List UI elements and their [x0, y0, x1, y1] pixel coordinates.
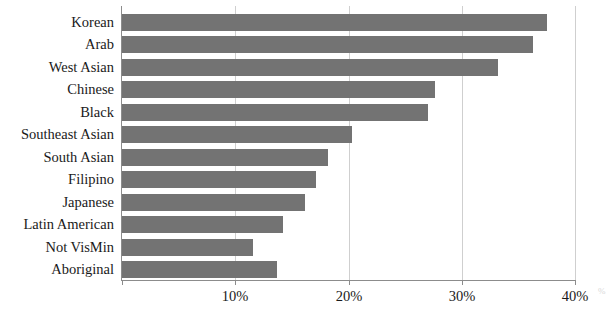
x-tick-label-text: 30%	[449, 288, 476, 304]
bar-row	[122, 14, 610, 31]
category-label: West Asian	[0, 59, 114, 76]
category-label: Latin American	[0, 216, 114, 233]
bar-chart: Korean Arab West Asian Chinese Black Sou…	[0, 0, 610, 315]
scan-artifact: %	[598, 286, 606, 296]
category-label-text: Japanese	[62, 194, 114, 210]
category-label-text: South Asian	[44, 149, 115, 165]
category-label: Korean	[0, 14, 114, 31]
bar-southeast-asian	[122, 126, 352, 143]
bar-black	[122, 104, 428, 121]
bar-row	[122, 149, 610, 166]
bar-chinese	[122, 81, 435, 98]
x-tick-label-text: 40%	[562, 288, 589, 304]
x-tick-label: 30%	[449, 288, 476, 305]
bar-not-vismin	[122, 239, 253, 256]
x-tick-mark-40	[575, 280, 576, 285]
x-tick-label: 40%	[562, 288, 589, 305]
x-tick-label-text: 20%	[336, 288, 363, 304]
category-label-text: Latin American	[23, 216, 114, 232]
bar-row	[122, 216, 610, 233]
category-label-text: Filipino	[68, 171, 114, 187]
category-label: Arab	[0, 36, 114, 53]
category-label: Aboriginal	[0, 261, 114, 278]
bar-japanese	[122, 194, 305, 211]
category-label-text: West Asian	[49, 59, 114, 75]
bar-row	[122, 36, 610, 53]
category-label-text: Korean	[71, 14, 114, 30]
category-label-text: Southeast Asian	[21, 126, 114, 142]
category-label: South Asian	[0, 149, 114, 166]
bar-row	[122, 194, 610, 211]
category-label-text: Arab	[85, 36, 114, 52]
category-label-text: Aboriginal	[51, 261, 114, 277]
x-tick-mark-0	[122, 280, 123, 285]
bar-row	[122, 261, 610, 278]
category-label-text: Black	[80, 104, 114, 120]
bar-korean	[122, 14, 547, 31]
bar-row	[122, 239, 610, 256]
bar-aboriginal	[122, 261, 277, 278]
category-label: Chinese	[0, 81, 114, 98]
bar-latin-american	[122, 216, 283, 233]
x-tick-label: 20%	[336, 288, 363, 305]
category-label-text: Chinese	[67, 81, 114, 97]
category-label: Black	[0, 104, 114, 121]
bar-row	[122, 126, 610, 143]
category-label: Japanese	[0, 194, 114, 211]
bar-row	[122, 81, 610, 98]
bar-row	[122, 171, 610, 188]
category-label: Southeast Asian	[0, 126, 114, 143]
x-tick-mark-30	[462, 280, 463, 285]
bar-arab	[122, 36, 533, 53]
x-tick-label: 10%	[222, 288, 249, 305]
category-label: Filipino	[0, 171, 114, 188]
x-tick-mark-20	[349, 280, 350, 285]
bar-row	[122, 59, 610, 76]
x-tick-mark-10	[235, 280, 236, 285]
x-tick-label-text: 10%	[222, 288, 249, 304]
bar-filipino	[122, 171, 316, 188]
bar-south-asian	[122, 149, 328, 166]
category-label-text: Not VisMin	[45, 239, 114, 255]
bar-row	[122, 104, 610, 121]
bar-west-asian	[122, 59, 498, 76]
category-label: Not VisMin	[0, 239, 114, 256]
